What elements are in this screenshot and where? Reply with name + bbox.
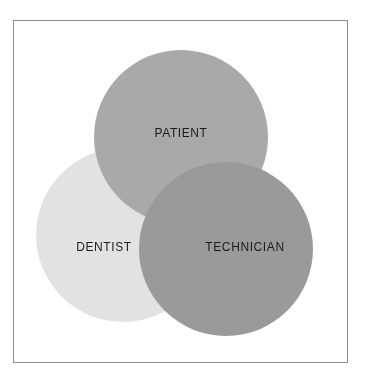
venn-circle-group [36,50,313,336]
venn-diagram-page: PATIENT DENTIST TECHNICIAN [0,0,367,381]
venn-circle-technician[interactable] [139,162,313,336]
venn-diagram-graphic [0,0,367,381]
